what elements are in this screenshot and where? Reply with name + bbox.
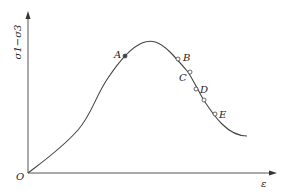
point-c-marker: [188, 70, 192, 74]
stress-strain-curve: [28, 41, 247, 173]
point-a-label: A: [113, 49, 121, 60]
point-e-label: E: [218, 109, 227, 120]
stress-strain-diagram: σ1−σ3 ε O A B C D E: [0, 0, 292, 194]
point-unlabeled-marker: [202, 98, 206, 102]
point-a-marker: [123, 54, 127, 58]
point-d-marker: [194, 87, 198, 91]
point-c-label: C: [179, 72, 187, 83]
point-e-marker: [213, 112, 217, 116]
origin-label: O: [16, 171, 24, 182]
point-d-label: D: [199, 84, 208, 95]
x-axis-arrow-icon: [269, 171, 277, 176]
point-b-marker: [176, 57, 180, 61]
y-axis-arrow-icon: [26, 11, 31, 19]
y-axis-label: σ1−σ3: [12, 25, 23, 60]
point-b-label: B: [182, 52, 190, 63]
x-axis-label: ε: [261, 178, 266, 189]
